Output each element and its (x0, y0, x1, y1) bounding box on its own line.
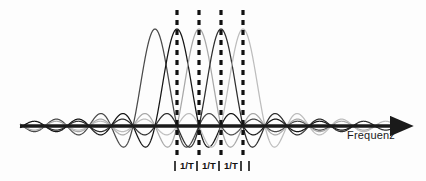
dashed-marker-group (177, 10, 243, 158)
sinc-curve-group (20, 29, 400, 147)
spectrum-plot (0, 0, 426, 181)
spacing-label-3: 1/T (224, 160, 238, 171)
spacing-label-1: 1/T (180, 160, 194, 171)
frequency-axis-label: Frequenz (347, 129, 395, 141)
spacing-label-2: 1/T (202, 160, 216, 171)
ofdm-spectrum-figure: Frequenz 1/T1/T1/T (0, 0, 426, 181)
sinc-curve-subcarrier-1 (20, 29, 335, 147)
